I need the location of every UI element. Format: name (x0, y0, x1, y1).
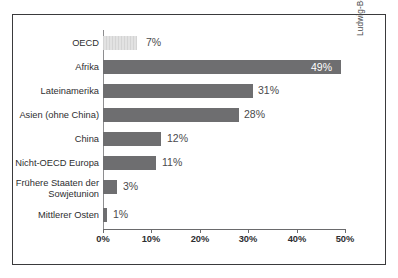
bar-lateinamerika (103, 84, 253, 98)
x-axis-tick-label: 0% (96, 234, 109, 244)
value-label-oecd: 7% (146, 36, 161, 48)
bar-row: Mittlerer Osten 1% (0, 205, 398, 227)
bar-sowjetunion (103, 180, 117, 194)
x-axis-tick (151, 229, 152, 233)
x-axis-tick-label: 30% (239, 234, 258, 244)
category-label-oecd: OECD (0, 38, 99, 49)
x-axis-tick-label: 20% (191, 234, 210, 244)
bar-row: Afrika 49% (0, 57, 398, 79)
x-axis-tick (345, 229, 346, 233)
value-label-mittlerer-osten: 1% (113, 208, 128, 220)
bar-row: China 12% (0, 129, 398, 151)
bar-afrika (103, 60, 341, 74)
value-label-asien: 28% (244, 108, 265, 120)
category-label-lateinamerika: Lateinamerika (0, 86, 99, 97)
category-label-nicht-oecd-europa: Nicht-OECD Europa (0, 158, 99, 169)
bar-row: Lateinamerika 31% (0, 81, 398, 103)
bar-nicht-oecd-europa (103, 156, 156, 170)
source-credit-text: Ludwig-Bölkow-Systemtechnik GmbH, 2010 (355, 0, 365, 36)
value-label-afrika: 49% (311, 61, 332, 73)
category-label-asien: Asien (ohne China) (0, 110, 99, 121)
x-axis-tick (200, 229, 201, 233)
value-label-china: 12% (167, 132, 188, 144)
x-axis-tick-label: 10% (142, 234, 161, 244)
category-label-afrika: Afrika (0, 62, 99, 73)
value-label-lateinamerika: 31% (258, 84, 279, 96)
value-label-nicht-oecd-europa: 11% (162, 156, 182, 168)
value-label-sowjetunion: 3% (123, 180, 138, 192)
category-label-sowjetunion: Frühere Staaten der Sowjetunion (7, 178, 99, 199)
category-label-mittlerer-osten: Mittlerer Osten (0, 210, 99, 221)
x-axis-tick (297, 229, 298, 233)
x-axis-tick-label: 40% (288, 234, 307, 244)
bar-mittlerer-osten (103, 208, 107, 222)
bar-row: OECD 7% (0, 33, 398, 55)
bar-china (103, 132, 161, 146)
category-label-china: China (0, 134, 99, 145)
x-axis-line (103, 229, 346, 230)
x-axis-tick-label: 50% (336, 234, 355, 244)
bar-asien (103, 108, 239, 122)
x-axis-tick (248, 229, 249, 233)
bar-oecd (103, 36, 137, 50)
bar-row: Nicht-OECD Europa 11% (0, 153, 398, 175)
x-axis-tick (103, 229, 104, 233)
bar-row: Asien (ohne China) 28% (0, 105, 398, 127)
plot-area: OECD 7% Afrika 49% Lateinamerika 31% Asi… (0, 0, 398, 278)
bar-row: Frühere Staaten der Sowjetunion 3% (0, 177, 398, 203)
chart-figure: OECD 7% Afrika 49% Lateinamerika 31% Asi… (0, 0, 398, 278)
